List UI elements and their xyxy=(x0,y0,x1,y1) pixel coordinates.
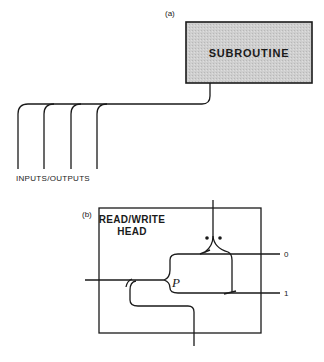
output-label-0: 0 xyxy=(284,250,289,259)
panel-b-label: (b) xyxy=(82,210,92,219)
io-line-1 xyxy=(18,104,28,169)
panel-b: (b) READ/WRITE HEAD P 0 1 xyxy=(82,200,289,346)
output-line-0 xyxy=(164,254,280,280)
io-line-4 xyxy=(97,104,107,169)
output-line-1 xyxy=(164,280,280,293)
junction-dot-left xyxy=(205,236,209,240)
io-line-3 xyxy=(71,104,81,169)
panel-a-label: (a) xyxy=(165,9,175,18)
junction-label-p: P xyxy=(171,275,180,290)
output-label-1: 1 xyxy=(284,289,289,298)
panel-a: (a) SUBROUTINE INPUTS/OUTPUTS xyxy=(16,9,312,183)
lower-branch xyxy=(130,281,194,346)
io-line-2 xyxy=(44,104,54,169)
subroutine-label: SUBROUTINE xyxy=(209,47,290,59)
diagram-canvas: (a) SUBROUTINE INPUTS/OUTPUTS (b) READ/W… xyxy=(0,0,324,362)
io-label: INPUTS/OUTPUTS xyxy=(16,174,90,183)
head-title-line1: READ/WRITE xyxy=(99,214,165,225)
io-bus xyxy=(18,83,210,169)
head-title-line2: HEAD xyxy=(117,226,147,237)
junction-dot-right xyxy=(218,236,222,240)
